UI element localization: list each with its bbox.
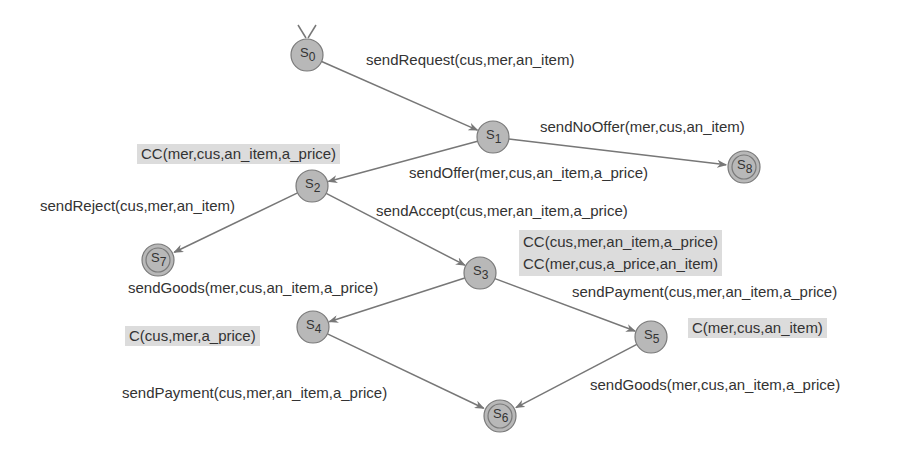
transition-label-send-payment-s3-s5: sendPayment(cus,mer,an_item,a_price) — [572, 283, 837, 301]
state-s2: S2 — [296, 170, 328, 202]
annotation-s3-line2: CC(mer,cus,a_price,an_item) — [523, 253, 718, 275]
annotation-s3: CC(cus,mer,an_item,a_price) CC(mer,cus,a… — [519, 230, 722, 276]
transition-label-send-goods-s3-s4: sendGoods(mer,cus,an_item,a_price) — [128, 279, 378, 297]
transition-label-send-reject: sendReject(cus,mer,an_item) — [40, 197, 235, 215]
state-s1: S1 — [477, 121, 509, 153]
state-s3: S3 — [464, 257, 496, 289]
state-s8: S8 — [728, 151, 760, 183]
state-s7: S7 — [142, 244, 174, 276]
edge-s1-s8 — [509, 139, 726, 165]
state-s5: S5 — [635, 321, 667, 353]
annotation-s5: C(mer,cus,an_item) — [688, 318, 827, 338]
transition-label-send-goods-s5-s6: sendGoods(mer,cus,an_item,a_price) — [590, 376, 840, 394]
annotation-s2: CC(mer,cus,an_item,a_price) — [137, 144, 340, 164]
transition-label-send-request: sendRequest(cus,mer,an_item) — [366, 51, 574, 69]
annotation-s4: C(cus,mer,a_price) — [125, 326, 260, 346]
transition-label-send-payment-s4-s6: sendPayment(cus,mer,an_item,a_price) — [122, 384, 387, 402]
state-s6: S6 — [484, 400, 516, 432]
state-s0: S0 — [291, 39, 323, 71]
transition-label-send-no-offer: sendNoOffer(mer,cus,an_item) — [540, 118, 745, 136]
transition-label-send-offer: sendOffer(mer,cus,an_item,a_price) — [409, 164, 648, 182]
initial-state-marker — [298, 25, 316, 38]
edge-s0-s1 — [322, 61, 478, 130]
annotation-s3-line1: CC(cus,mer,an_item,a_price) — [523, 231, 718, 253]
transition-label-send-accept: sendAccept(cus,mer,an_item,a_price) — [376, 202, 628, 220]
state-s4: S4 — [297, 311, 329, 343]
